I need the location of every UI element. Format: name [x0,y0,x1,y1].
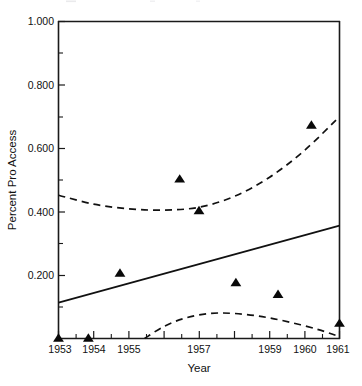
x-tick-label-1953: 1953 [48,343,72,355]
lower-confidence-band [145,313,340,339]
regression-line [59,226,340,303]
top-edge-artifact [66,1,200,3]
data-point-marker [273,290,284,298]
y-tick-label-0600: 0.600 [28,142,54,154]
x-axis-tick-labels: 1953 1954 1955 1957 1959 1960 1961 [48,343,350,355]
x-tick-label-1960: 1960 [293,343,317,355]
data-point-marker [334,318,345,326]
y-tick-label-0200: 0.200 [28,269,54,281]
data-point-marker [230,278,241,286]
chart-figure: 1.000 0.800 0.600 0.400 0.200 Percent Pr… [0,0,362,386]
scatter-plot-svg: 1.000 0.800 0.600 0.400 0.200 Percent Pr… [0,0,362,386]
y-tick-label-1000: 1.000 [28,15,54,27]
x-tick-label-1955: 1955 [117,343,141,355]
data-point-marker [174,174,185,182]
y-axis-tick-labels: 1.000 0.800 0.600 0.400 0.200 [28,15,54,281]
y-tick-label-0800: 0.800 [28,79,54,91]
data-point-marker [83,333,94,341]
upper-confidence-band [59,117,340,211]
y-axis-title: Percent Pro Access [6,130,18,231]
data-point-marker [306,120,317,128]
data-series-layer [53,117,345,342]
data-point-marker [115,268,126,276]
y-tick-label-0400: 0.400 [28,206,54,218]
x-tick-label-1961: 1961 [326,343,350,355]
x-tick-label-1954: 1954 [82,343,106,355]
x-axis-title: Year [187,362,210,374]
x-tick-label-1957: 1957 [187,343,211,355]
x-tick-label-1959: 1959 [258,343,282,355]
data-point-marker [53,333,64,341]
